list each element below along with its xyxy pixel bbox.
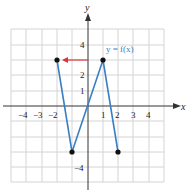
x-tick: −4 <box>18 110 28 120</box>
x-axis-label: x <box>180 101 186 112</box>
y-tick: −4 <box>74 163 84 173</box>
x-tick: 1 <box>101 110 106 120</box>
x-tick: 3 <box>131 110 136 120</box>
arrow-left-icon <box>62 57 68 63</box>
y-axis-arrowhead-icon <box>85 13 91 21</box>
function-graph: x y −4 −3 −2 1 2 3 4 4 2 1 −4 y = f(x) <box>0 0 192 195</box>
y-tick: 1 <box>80 86 85 96</box>
y-axis-label: y <box>84 2 90 13</box>
point <box>100 57 105 62</box>
point <box>115 149 120 154</box>
y-tick: 2 <box>80 70 85 80</box>
point <box>69 149 74 154</box>
y-tick: 4 <box>80 40 85 50</box>
x-tick: −2 <box>48 110 58 120</box>
axes <box>3 18 176 190</box>
x-tick: −3 <box>33 110 43 120</box>
point <box>54 57 59 62</box>
x-tick: 4 <box>146 110 151 120</box>
x-tick: 2 <box>115 110 120 120</box>
function-label: y = f(x) <box>106 44 134 54</box>
x-axis-arrowhead-icon <box>173 103 181 109</box>
